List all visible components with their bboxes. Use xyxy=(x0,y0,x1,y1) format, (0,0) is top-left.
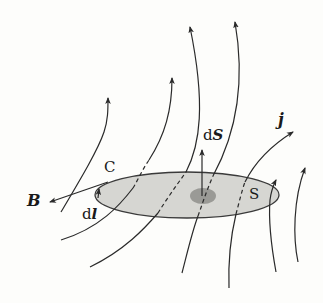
label-ds: dS xyxy=(203,128,223,143)
label-b: B xyxy=(27,193,41,209)
label-dl-l: l xyxy=(92,205,98,223)
label-ds-d: d xyxy=(203,126,213,144)
label-dl: dl xyxy=(82,207,97,222)
label-s: S xyxy=(249,187,259,202)
diagram-graphics xyxy=(0,0,323,303)
label-ds-s: S xyxy=(213,126,224,144)
ampere-law-diagram: B C dl dS j S xyxy=(0,0,323,303)
label-dl-d: d xyxy=(82,205,92,223)
label-j: j xyxy=(278,112,284,128)
label-c: C xyxy=(104,160,115,175)
current-density-lines xyxy=(61,22,305,288)
